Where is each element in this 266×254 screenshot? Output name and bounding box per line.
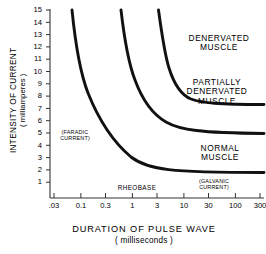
x-tick-label-300: 300 — [248, 202, 266, 210]
annotation-rheobase: RHEOBASE — [106, 184, 168, 191]
annotation-galvanic-line2: CURRENT) — [186, 184, 242, 190]
x-tick-label-3: 3 — [145, 202, 169, 210]
x-tick-label-0-3: 0.3 — [94, 202, 118, 210]
annotation-denervated-line2: MUSCLE — [176, 43, 262, 52]
annotation-denervated-muscle: DENERVATED MUSCLE — [176, 34, 262, 53]
y-tick-label-15: 15 — [28, 6, 42, 14]
y-tick-label-11: 11 — [28, 55, 42, 63]
annotation-normal-line2: MUSCLE — [178, 153, 262, 162]
curve-partially-denervated-muscle — [121, 10, 264, 134]
annotation-normal-muscle: NORMAL MUSCLE — [178, 144, 262, 163]
annotation-faradic-current: (FARADIC CURRENT) — [50, 129, 100, 141]
y-tick-label-6: 6 — [28, 117, 42, 125]
y-tick-label-5: 5 — [28, 129, 42, 137]
y-tick-label-7: 7 — [28, 105, 42, 113]
x-axis-title: DURATION OF PULSE WAVE ( milliseconds ) — [30, 224, 258, 246]
x-tick-label-100: 100 — [223, 202, 247, 210]
x-tick-label-0-1: 0.1 — [69, 202, 93, 210]
y-tick-label-14: 14 — [28, 19, 42, 27]
y-tick-label-9: 9 — [28, 80, 42, 88]
annotation-rheobase-line1: RHEOBASE — [106, 184, 168, 191]
y-tick-label-8: 8 — [28, 92, 42, 100]
x-axis-title-main: DURATION OF PULSE WAVE — [30, 224, 258, 236]
y-axis-title-units: ( milliamperes ) — [18, 10, 26, 190]
y-tick-label-3: 3 — [28, 154, 42, 162]
y-axis-title: INTENSITY OF CURRENT ( milliamperes ) — [0, 0, 30, 210]
annotation-partially-denervated-muscle: PARTIALLY DENERVATED MUSCLE — [172, 78, 262, 106]
y-tick-label-12: 12 — [28, 43, 42, 51]
y-tick-label-10: 10 — [28, 68, 42, 76]
y-tick-label-2: 2 — [28, 166, 42, 174]
x-axis-title-units: ( milliseconds ) — [30, 236, 258, 246]
x-tick-label-30: 30 — [197, 202, 221, 210]
plot-area: 15 14 13 12 11 10 9 8 7 6 5 4 3 2 1 .03 … — [28, 6, 266, 218]
annotation-galvanic-current: (GALVANIC CURRENT) — [186, 178, 242, 190]
y-tick-label-1: 1 — [28, 178, 42, 186]
annotation-faradic-line2: CURRENT) — [50, 135, 100, 141]
y-tick-label-4: 4 — [28, 142, 42, 150]
annotation-partial-line3: MUSCLE — [172, 97, 262, 106]
x-tick-label-10: 10 — [172, 202, 196, 210]
x-tick-label-1: 1 — [120, 202, 144, 210]
x-tick-marks — [54, 193, 260, 198]
y-tick-label-13: 13 — [28, 31, 42, 39]
x-tick-label-0-03: .03 — [42, 202, 66, 210]
strength-duration-curve-figure: INTENSITY OF CURRENT ( milliamperes ) — [0, 0, 266, 254]
y-tick-marks — [46, 10, 50, 182]
